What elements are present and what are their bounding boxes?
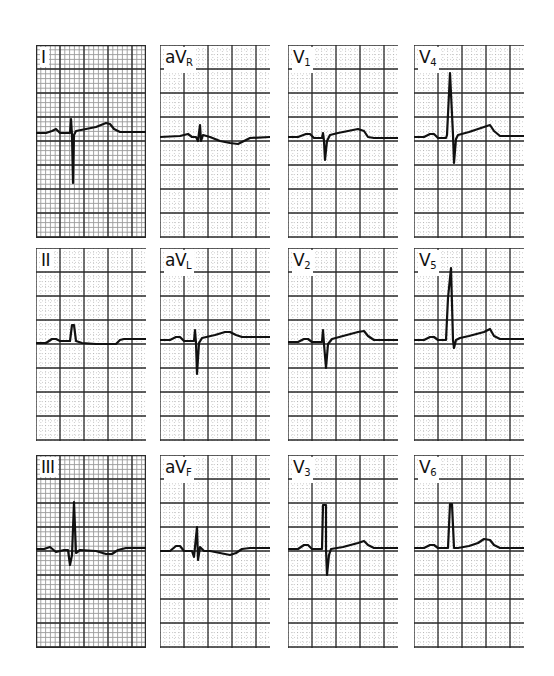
lead-label-main: V [293,250,304,270]
lead-label-sub: 4 [430,57,436,68]
lead-label-sub: 5 [430,260,436,271]
lead-label-main: V [293,47,304,67]
ecg-grid [160,455,270,648]
ecg-grid [36,248,146,441]
lead-panel-v3: V3 [288,455,398,648]
ecg-grid [288,45,398,238]
lead-label: V5 [418,250,439,276]
lead-panel-i: I [36,45,146,238]
lead-label-sub: L [186,260,191,271]
ecg-grid [288,455,398,648]
lead-label: V2 [292,250,313,276]
lead-panel-ii: II [36,248,146,441]
lead-label-main: aV [165,457,186,477]
lead-label-main: V [419,457,430,477]
lead-panel-v2: V2 [288,248,398,441]
lead-label-sub: 3 [304,467,310,478]
ecg-grid [414,248,524,441]
lead-label-main: III [41,457,55,477]
lead-label: aVF [164,457,194,483]
lead-label: V1 [292,47,313,73]
lead-label: V4 [418,47,439,73]
ecg-grid [36,455,146,648]
lead-panel-v1: V1 [288,45,398,238]
lead-label-main: aV [165,47,186,67]
lead-label-sub: F [186,467,191,478]
lead-label-main: aV [165,250,186,270]
ecg-trace [288,505,398,575]
lead-label-sub: R [186,57,192,68]
ecg-grid [160,248,270,441]
lead-label: V6 [418,457,439,483]
lead-label-main: V [419,250,430,270]
ecg-grid [414,455,524,648]
ecg-trace [414,73,524,163]
lead-label: III [40,457,58,477]
lead-label-main: I [41,47,46,67]
ecg-grid [36,45,146,238]
lead-label-sub: 1 [304,57,310,68]
lead-panel-v4: V4 [414,45,524,238]
lead-panel-avr: aVR [160,45,270,238]
lead-label-sub: 6 [430,467,436,478]
lead-label-main: V [419,47,430,67]
ecg-grid [414,45,524,238]
ecg-trace [414,268,524,348]
lead-label: II [40,250,53,270]
lead-label: aVR [164,47,196,73]
lead-panel-iii: III [36,455,146,648]
lead-panel-avl: aVL [160,248,270,441]
ecg-grid [160,45,270,238]
lead-panel-avf: aVF [160,455,270,648]
lead-label: V3 [292,457,313,483]
lead-panel-v5: V5 [414,248,524,441]
lead-label-main: V [293,457,304,477]
lead-panel-v6: V6 [414,455,524,648]
lead-label-sub: 2 [304,260,310,271]
lead-label-main: II [41,250,50,270]
ecg-grid [288,248,398,441]
lead-label: aVL [164,250,194,276]
lead-label: I [40,47,49,67]
